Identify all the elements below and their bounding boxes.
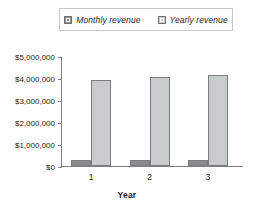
yearly-swatch-icon (158, 16, 166, 24)
y-axis-tick (58, 123, 62, 124)
bar-group (188, 75, 228, 166)
bar-yearly-revenue[interactable] (150, 77, 170, 166)
y-axis-tick-label: $1,000,000 (15, 141, 55, 150)
plot-area: $0$1,000,000$2,000,000$3,000,000$4,000,0… (61, 57, 236, 167)
legend-entry-monthly-revenue: Monthly revenue (64, 15, 140, 25)
y-axis-tick (58, 101, 62, 102)
bar-yearly-revenue[interactable] (91, 80, 111, 166)
bar-yearly-revenue[interactable] (208, 75, 228, 166)
y-axis-tick-label: $3,000,000 (15, 97, 55, 106)
y-axis-tick-label: $5,000,000 (15, 53, 55, 62)
legend-label-monthly-revenue: Monthly revenue (76, 15, 140, 25)
y-axis-tick (58, 167, 62, 168)
bar-chart-figure: Monthly revenue Yearly revenue $0$1,000,… (0, 0, 254, 210)
x-axis-tick-label: 3 (205, 172, 210, 182)
x-axis-tick-label: 1 (89, 172, 94, 182)
y-axis-tick-label: $0 (46, 163, 55, 172)
y-axis-tick (58, 57, 62, 58)
x-axis-tick-label: 2 (147, 172, 152, 182)
y-axis-tick-label: $2,000,000 (15, 119, 55, 128)
legend-label-yearly-revenue: Yearly revenue (170, 15, 228, 25)
x-axis-title: Year (0, 190, 254, 200)
y-axis-tick-label: $4,000,000 (15, 75, 55, 84)
monthly-swatch-icon (64, 16, 72, 24)
bar-group (71, 80, 111, 166)
x-axis-line (61, 166, 243, 167)
chart-legend: Monthly revenue Yearly revenue (59, 8, 233, 31)
y-axis-tick (58, 145, 62, 146)
bar-group (130, 77, 170, 166)
legend-entry-yearly-revenue: Yearly revenue (158, 15, 228, 25)
y-axis-tick (58, 79, 62, 80)
